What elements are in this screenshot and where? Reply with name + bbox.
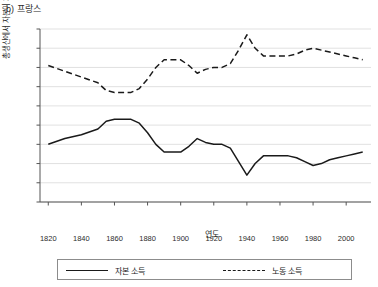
y-axis-title: 총생산에서 자본이 차지하는 비중(%) <box>4 29 18 202</box>
legend-line-dashed-icon <box>223 270 265 271</box>
x-tick-label: 2000 <box>326 235 366 243</box>
legend-line-solid-icon <box>66 270 108 271</box>
data-series-labor <box>48 35 362 93</box>
chart-legend: 자본 소득 노동 소득 <box>57 259 352 280</box>
axis-lines <box>40 29 371 202</box>
chart-canvas <box>40 29 371 202</box>
chart-figure: b) 프랑스 총생산에서 자본이 차지하는 비중(%) 연도 010203040… <box>0 0 378 287</box>
plot-area: 0102030405060708090 18201840186018801900… <box>40 29 371 202</box>
data-series-capital <box>48 119 362 175</box>
axis-ticks <box>37 29 347 206</box>
page-title: b) 프랑스 <box>6 2 41 15</box>
gridlines <box>40 29 371 202</box>
legend-label-labor: 노동 소득 <box>272 265 302 276</box>
y-axis-title-label: 총생산에서 자본이 차지하는 비중(%) <box>0 0 11 59</box>
legend-item-labor: 노동 소득 <box>223 260 302 281</box>
legend-label-capital: 자본 소득 <box>115 265 145 276</box>
legend-item-capital: 자본 소득 <box>66 260 145 281</box>
data-series-layer <box>48 35 362 175</box>
